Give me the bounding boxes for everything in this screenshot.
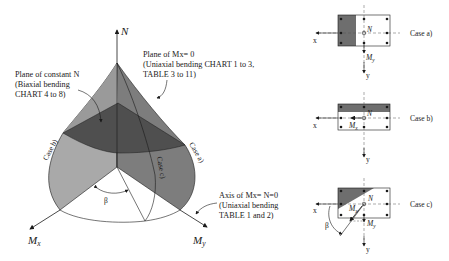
case-a-label: Case a)	[410, 29, 433, 38]
svg-text:TABLE 1 and 2): TABLE 1 and 2)	[219, 211, 274, 220]
annotation-mx-zero: Plane of Mx= 0 (Uniaxial bending CHART 1…	[143, 50, 254, 98]
svg-text:N: N	[366, 25, 373, 34]
section-case-b: N Mx x y Case b)	[313, 92, 433, 164]
section-case-a: N My x y Case a)	[313, 5, 433, 80]
svg-text:y: y	[366, 245, 370, 254]
n-axis-label: N	[120, 25, 129, 37]
svg-text:(Uniaxial bending CHART 1 to 3: (Uniaxial bending CHART 1 to 3,	[143, 60, 254, 69]
base-arc	[60, 210, 180, 222]
svg-text:N: N	[367, 194, 374, 203]
my-axis-label: My	[192, 234, 206, 248]
interaction-diagram: N Mx My β Case b) Case c) Case a) Plane …	[0, 0, 449, 261]
svg-text:Mx: Mx	[348, 121, 358, 131]
section-case-c: N Mx My x β y Case c)	[313, 178, 433, 254]
annotation-axis-mx-n-zero: Axis of Mx= N=0 (Uniaxial bending TABLE …	[196, 191, 278, 220]
svg-text:N: N	[366, 109, 373, 118]
case-b-label: Case b)	[410, 114, 433, 123]
svg-text:(Uniaxial bending: (Uniaxial bending	[219, 201, 278, 210]
mx-axis	[30, 210, 60, 229]
svg-text:My: My	[365, 53, 375, 63]
svg-text:y: y	[366, 71, 370, 80]
svg-text:(Biaxial bending: (Biaxial bending	[15, 80, 70, 89]
svg-text:x: x	[313, 206, 317, 215]
svg-text:CHART 4 to 8): CHART 4 to 8)	[15, 90, 66, 99]
svg-text:β: β	[325, 221, 329, 230]
svg-text:x: x	[313, 36, 317, 45]
mx-axis-label: Mx	[27, 234, 41, 248]
beta-arc	[97, 188, 128, 193]
svg-text:My: My	[366, 219, 376, 229]
case-c-label: Case c)	[410, 200, 433, 209]
svg-text:y: y	[366, 155, 370, 164]
svg-text:TABLE 3 to 11): TABLE 3 to 11)	[143, 70, 196, 79]
svg-text:Axis of Mx= N=0: Axis of Mx= N=0	[219, 191, 278, 200]
svg-text:Plane of Mx= 0: Plane of Mx= 0	[143, 50, 194, 59]
svg-text:Plane of constant N: Plane of constant N	[15, 70, 79, 79]
interaction-surface	[49, 63, 195, 222]
beta-label: β	[104, 196, 108, 205]
my-axis	[180, 210, 207, 227]
svg-text:Mx: Mx	[348, 204, 358, 214]
svg-text:x: x	[313, 121, 317, 130]
